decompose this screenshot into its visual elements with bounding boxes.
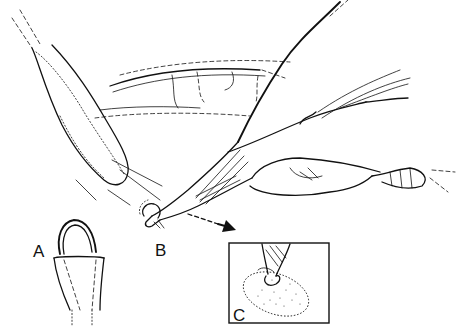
callout-arrow — [188, 214, 236, 232]
panel-a-loop-detail — [54, 220, 104, 325]
swab-instrument — [12, 10, 162, 205]
incision-outline — [95, 61, 290, 118]
panel-label-b: B — [155, 242, 166, 259]
illustration-canvas — [0, 0, 470, 334]
panel-label-a: A — [33, 243, 44, 260]
panel-label-c: C — [233, 307, 245, 324]
instrument-tip — [139, 200, 164, 228]
hand — [228, 0, 455, 195]
instrument-shaft — [145, 142, 252, 227]
